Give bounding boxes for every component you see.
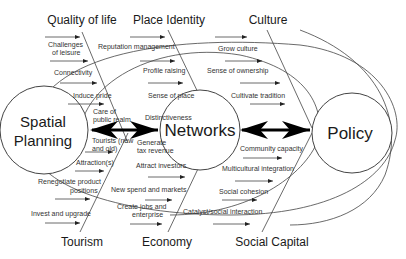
factor-induce-pride: Induce pride bbox=[73, 92, 112, 100]
category-tourism: Tourism bbox=[61, 235, 103, 249]
factor-profile: Profile raising bbox=[143, 67, 186, 75]
factor-catalyst: Catalyst/social interaction bbox=[183, 208, 262, 216]
policy-label: Policy bbox=[327, 124, 373, 143]
factor-sense-of-place: Sense of place bbox=[148, 92, 194, 100]
spatial-planning-node bbox=[0, 86, 88, 174]
factor-attractions: Attraction(s) bbox=[76, 159, 114, 167]
factor-create-jobs-1: Create jobs and bbox=[117, 203, 167, 211]
factor-tourists-1: Tourists (new bbox=[92, 137, 134, 145]
category-quality-of-life: Quality of life bbox=[47, 13, 117, 27]
factor-create-jobs-2: enterprise bbox=[132, 211, 163, 219]
factor-renegotiate-1: Renegotiate product bbox=[38, 178, 101, 186]
spatial-planning-label-1: Spatial bbox=[20, 113, 66, 130]
factor-care-2: public realm bbox=[93, 116, 131, 124]
bone-culture bbox=[267, 30, 312, 128]
factor-challenges-1: Challenges bbox=[48, 41, 84, 49]
category-economy: Economy bbox=[142, 235, 192, 249]
factor-sense-ownership: Sense of ownership bbox=[207, 67, 269, 75]
category-place-identity: Place Identity bbox=[133, 13, 205, 27]
factor-generate-1: Generate bbox=[137, 139, 166, 146]
factor-multicultural: Multicultural integration bbox=[222, 165, 294, 173]
factor-distinctiveness: Distinctiveness bbox=[145, 114, 192, 121]
factor-connectivity: Connectivity bbox=[54, 69, 93, 77]
factor-community-capacity: Community capacity bbox=[240, 145, 304, 153]
spatial-planning-label-2: Planning bbox=[14, 132, 72, 149]
factor-cultivate: Cultivate tradition bbox=[231, 92, 285, 99]
category-culture: Culture bbox=[249, 13, 288, 27]
factor-attract-investors: Attract investors bbox=[136, 162, 187, 169]
factor-reputation: Reputation management bbox=[98, 43, 175, 51]
factor-tourists-2: and old) bbox=[92, 145, 117, 153]
factor-new-spend: New spend and markets bbox=[111, 186, 187, 194]
factor-invest: Invest and upgrade bbox=[31, 210, 91, 218]
networks-label: Networks bbox=[165, 121, 236, 140]
factor-grow-culture: Grow culture bbox=[218, 45, 258, 52]
factor-challenges-2: of leisure bbox=[52, 49, 81, 56]
factor-renegotiate-2: positions bbox=[70, 187, 98, 195]
factor-generate-2: tax revenue bbox=[137, 147, 174, 154]
category-social-capital: Social Capital bbox=[235, 235, 308, 249]
fishbone-diagram: Spatial Planning Networks Policy Quality… bbox=[0, 0, 406, 259]
factor-care-1: Care of bbox=[93, 108, 116, 115]
factor-social-cohesion: Social cohesion bbox=[219, 188, 268, 195]
